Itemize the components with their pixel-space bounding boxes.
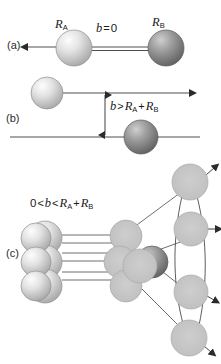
panel-a-graphics bbox=[28, 30, 184, 66]
sphere-p3-panel-c bbox=[174, 275, 208, 309]
equals-sign-a: = bbox=[102, 22, 110, 34]
sphere-a6-panel-c bbox=[21, 271, 51, 301]
product-spheres-right bbox=[171, 164, 208, 356]
plus-sign-c: + bbox=[72, 197, 80, 209]
panel-b-graphics bbox=[10, 77, 200, 154]
sphere-p2-panel-c bbox=[174, 212, 208, 246]
rb-subscript-b: B bbox=[153, 105, 158, 114]
panel-label-b: (b) bbox=[6, 113, 19, 124]
zero-value-a: 0 bbox=[111, 22, 117, 34]
sphere-b-panel-a bbox=[148, 30, 184, 66]
ra-subscript-c: A bbox=[67, 202, 72, 211]
panel-c-graphics bbox=[21, 164, 216, 356]
ra-subscript-b: A bbox=[132, 105, 137, 114]
sphere-b-panel-b bbox=[124, 120, 158, 154]
panel-label-c: (c) bbox=[6, 248, 19, 259]
panel-label-a: (a) bbox=[7, 40, 20, 51]
sphere-p1-panel-c bbox=[172, 164, 208, 200]
sphere-p4-panel-c bbox=[171, 320, 207, 356]
radius-a-label-panel-a: RA bbox=[55, 18, 68, 31]
reactant-cluster-left bbox=[21, 221, 62, 303]
radius-a-symbol: R bbox=[55, 17, 63, 31]
radius-b-label-panel-a: RB bbox=[152, 16, 165, 29]
rb-subscript-c: B bbox=[88, 202, 93, 211]
less-sign-c2: < bbox=[51, 197, 59, 209]
collision-complex-middle bbox=[104, 220, 168, 302]
radius-a-subscript: A bbox=[63, 23, 68, 32]
impact-parameter-condition-b: b>RA+RB bbox=[110, 100, 158, 113]
radius-b-symbol: R bbox=[152, 15, 160, 29]
sphere-a-panel-b bbox=[31, 77, 63, 109]
plus-sign-b: + bbox=[137, 100, 145, 112]
less-sign-c1: < bbox=[36, 197, 44, 209]
figure-canvas: RA RB b=0 (a) (b) b>RA+RB (c) 0<b<RA+RB bbox=[0, 0, 221, 364]
greater-sign-b: > bbox=[116, 100, 124, 112]
radius-b-subscript: B bbox=[160, 21, 165, 30]
sphere-a-panel-a bbox=[56, 30, 92, 66]
sphere-m4-panel-c bbox=[123, 249, 157, 283]
collision-diagram-svg bbox=[0, 0, 221, 364]
impact-parameter-condition-c: 0<b<RA+RB bbox=[30, 197, 93, 210]
impact-parameter-condition-a: b=0 bbox=[96, 22, 117, 35]
